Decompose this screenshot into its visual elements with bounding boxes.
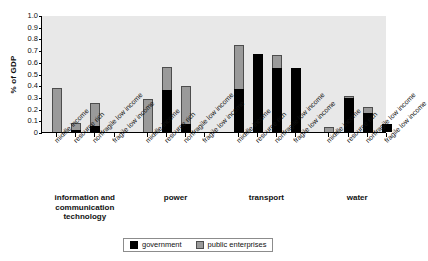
y-axis-tick-labels: 00.10.20.30.40.50.60.70.80.91.0 — [20, 16, 38, 134]
x-tick-mark — [204, 133, 205, 137]
bar-segment-public-enterprises — [272, 55, 282, 68]
y-tick-label: 0.1 — [28, 118, 38, 126]
y-tick-mark — [39, 63, 43, 64]
y-tick-mark — [39, 121, 43, 122]
y-tick-label: 0.7 — [28, 47, 38, 55]
x-group-label: water — [311, 193, 403, 203]
legend-label: government — [142, 241, 182, 249]
y-tick-mark — [39, 86, 43, 87]
y-tick-label: 0.8 — [28, 36, 38, 44]
x-tick-mark — [328, 133, 329, 137]
y-tick-label: 0.9 — [28, 24, 38, 32]
chart-title-clipped — [40, 0, 340, 3]
legend-label: public enterprises — [208, 241, 267, 249]
x-group-label: power — [130, 193, 222, 203]
bar-segment-public-enterprises — [162, 67, 172, 90]
x-group-label: transport — [220, 193, 312, 203]
x-axis-group-labels: information and communication technology… — [0, 193, 392, 229]
x-tick-mark — [56, 133, 57, 137]
x-tick-mark — [386, 133, 387, 137]
chart-legend: governmentpublic enterprises — [123, 238, 273, 252]
legend-swatch-public-enterprises — [196, 241, 204, 249]
x-tick-mark — [295, 133, 296, 137]
x-tick-mark — [367, 133, 368, 137]
x-group-label: information and communication technology — [39, 193, 131, 222]
x-tick-mark — [147, 133, 148, 137]
bar-segment-public-enterprises — [234, 45, 244, 89]
legend-swatch-government — [130, 241, 138, 249]
x-tick-mark — [185, 133, 186, 137]
x-tick-mark — [94, 133, 95, 137]
bar-segment-public-enterprises — [52, 88, 62, 132]
x-tick-mark — [348, 133, 349, 137]
y-tick-mark — [39, 16, 43, 17]
y-tick-mark — [39, 75, 43, 76]
legend-item: public enterprises — [196, 241, 267, 249]
y-tick-label: 1.0 — [28, 12, 38, 20]
x-tick-mark — [114, 133, 115, 137]
y-tick-label: 0.5 — [28, 71, 38, 79]
x-tick-mark — [257, 133, 258, 137]
y-tick-label: 0.2 — [28, 106, 38, 114]
bar — [52, 88, 62, 132]
y-tick-mark — [39, 133, 43, 134]
y-axis-title: % of GDP — [9, 45, 18, 105]
y-tick-label: 0.6 — [28, 59, 38, 67]
y-tick-mark — [39, 51, 43, 52]
y-tick-mark — [39, 28, 43, 29]
bar — [234, 45, 244, 132]
x-tick-mark — [276, 133, 277, 137]
y-tick-label: 0.4 — [28, 82, 38, 90]
x-axis-category-labels: middle incomeresource richnonfragile low… — [0, 137, 392, 189]
y-tick-label: 0 — [34, 129, 38, 137]
y-tick-label: 0.3 — [28, 94, 38, 102]
y-tick-mark — [39, 39, 43, 40]
x-tick-mark — [75, 133, 76, 137]
x-tick-mark — [166, 133, 167, 137]
x-tick-mark — [238, 133, 239, 137]
legend-item: government — [130, 241, 182, 249]
y-tick-mark — [39, 110, 43, 111]
y-tick-mark — [39, 98, 43, 99]
